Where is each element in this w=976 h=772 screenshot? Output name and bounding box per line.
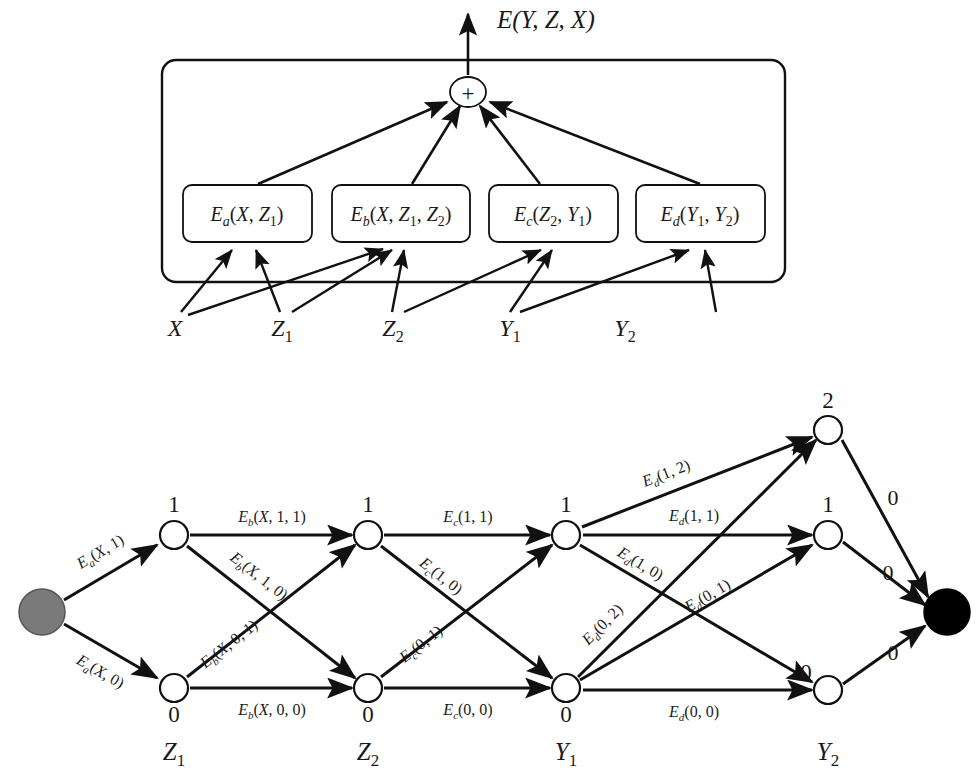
node-Z2-state-0 [354,674,382,702]
state-label-Y2-2: 2 [822,388,834,413]
edge-label-Z1-0-to-Z2-0: Eb(X, 0, 0) [237,701,306,721]
state-label-Y2-1: 1 [822,492,834,517]
svg-text:Ed(0, 2): Ed(0, 2) [578,600,628,650]
state-label-Y1-1: 1 [560,492,572,517]
edge-label-Y1-0-to-Y2-0: Ed(0, 0) [668,703,719,723]
column-label-Z2: Z2 [357,738,379,770]
factor-graph-panel: E(Y, Z, X) + Ea(X, Z1) Eb(X, Z1, Z2) Ec(… [162,6,785,345]
svg-text:Eb(X, 1, 0): Eb(X, 1, 0) [225,548,291,606]
svg-text:Ed(0, 0): Ed(0, 0) [668,703,719,723]
svg-text:Eb(X, 0, 1): Eb(X, 0, 1) [196,616,262,674]
edge-label-Z2-0-to-Y1-1: Ec(0, 1) [395,622,447,669]
svg-text:Eb(X, 0, 0): Eb(X, 0, 0) [237,701,306,721]
variable-label-Y2: Y2 [614,315,635,345]
factor-box-d: Ed(Y1, Y2) [636,185,765,242]
node-Z1-state-0 [160,674,188,702]
state-label-Y2-0: 0 [800,660,812,685]
state-label-Z1-0: 0 [168,702,180,727]
trellis-end-node [924,589,970,635]
edge-label-Z1-1-to-Z2-1: Eb(X, 1, 1) [237,508,306,528]
node-Y2-state-1 [814,521,842,549]
node-Z1-state-1 [160,521,188,549]
node-Z2-state-1 [354,521,382,549]
figure-root: E(Y, Z, X) + Ea(X, Z1) Eb(X, Z1, Z2) Ec(… [0,0,976,772]
edge-label-Y1-0-to-Y2-2: Ed(0, 2) [578,600,628,650]
factor-to-sum-arrow-d [490,102,700,184]
energy-output-label: E(Y, Z, X) [496,6,595,34]
factor-box-c: Ec(Z2, Y1) [489,185,618,242]
svg-text:Ec(1, 1): Ec(1, 1) [442,508,492,528]
trellis-panel: 1 0 1 0 1 0 2 1 0 Z1 Z2 Y1 Y2 Ea(X, 1) E… [19,388,970,770]
edge-Y1-0-to-Y2-2 [578,440,816,677]
edge-label-Y1-1-to-Y2-1: Ed(1, 1) [668,507,719,527]
svg-text:Eb(X, 1, 1): Eb(X, 1, 1) [237,508,306,528]
column-label-Y2: Y2 [817,738,839,770]
svg-text:Ec(0, 1): Ec(0, 1) [395,622,447,669]
column-label-Y1: Y1 [555,738,577,770]
variable-label-Z2: Z2 [382,315,403,345]
edge-Y2-0-to-end [843,626,925,684]
variable-label-X: X [167,315,184,341]
edge-label-Z2-1-to-Y1-1: Ec(1, 1) [442,508,492,528]
svg-text:Ed(0, 1): Ed(0, 1) [681,575,735,618]
node-Y1-state-1 [552,521,580,549]
state-label-Z1-1: 1 [168,492,180,517]
column-label-Z1: Z1 [163,738,185,770]
svg-text:Ed(1, 1): Ed(1, 1) [668,507,719,527]
factor-box-a: Ea(X, Z1) [183,185,312,242]
variable-label-Z1: Z1 [271,315,292,345]
plus-icon: + [462,81,475,106]
factor-box-b: Eb(X, Z1, Z2) [332,185,470,242]
edge-label-Z1-1-to-Z2-0: Eb(X, 1, 0) [225,548,291,606]
edge-label-Y1-0-to-Y2-1: Ed(0, 1) [681,575,735,618]
figure-svg: E(Y, Z, X) + Ea(X, Z1) Eb(X, Z1, Z2) Ec(… [0,0,976,772]
edge-label-Y2-2-to-end: 0 [888,485,899,510]
edge-label-Y2-1-to-end: 0 [883,560,894,585]
factor-to-sum-arrow-b [412,106,460,184]
node-Y1-state-0 [552,674,580,702]
svg-text:Ec(0, 0): Ec(0, 0) [442,701,492,721]
edge-label-Z1-0-to-Z2-1: Eb(X, 0, 1) [196,616,262,674]
trellis-start-node [19,589,65,635]
state-label-Z2-1: 1 [362,492,374,517]
edge-label-Z2-0-to-Y1-0: Ec(0, 0) [442,701,492,721]
state-label-Z2-0: 0 [362,702,374,727]
node-Y2-state-2 [814,416,842,444]
edge-label-Y2-0-to-end: 0 [888,640,899,665]
variable-label-Y1: Y1 [499,315,520,345]
state-label-Y1-0: 0 [560,702,572,727]
node-Y2-state-0 [814,676,842,704]
